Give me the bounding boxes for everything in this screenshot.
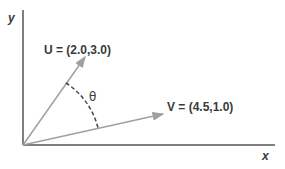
y-axis-label: y — [7, 11, 16, 25]
vector-u-label: U = (2.0,3.0) — [44, 43, 111, 57]
vector-v-arrow — [23, 114, 163, 145]
vector-v-label: V = (4.5,1.0) — [167, 100, 233, 114]
vector-angle-diagram: y x θ U = (2.0,3.0) V = (4.5,1.0) — [0, 0, 285, 169]
x-axis-label: x — [261, 149, 270, 163]
angle-label: θ — [89, 90, 96, 104]
vector-u-arrow — [23, 57, 85, 145]
